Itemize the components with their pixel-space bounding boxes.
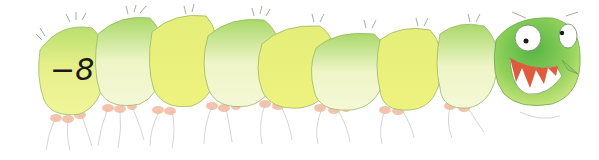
segment-3 xyxy=(311,33,386,110)
caterpillar-head xyxy=(494,18,580,106)
caterpillar-illustration: −8 xyxy=(0,0,599,160)
body-segments xyxy=(39,15,498,114)
left-pupil xyxy=(524,39,529,44)
left-eye xyxy=(515,25,541,51)
segment-2 xyxy=(377,28,442,110)
right-pupil xyxy=(560,31,564,35)
segment-1 xyxy=(437,24,498,108)
segment-label: −8 xyxy=(50,52,94,87)
right-eye xyxy=(559,24,577,48)
